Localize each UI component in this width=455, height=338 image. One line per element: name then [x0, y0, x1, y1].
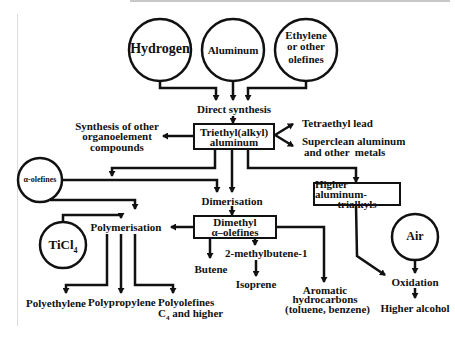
triethyl-line1: Triethyl(alkyl) [200, 127, 268, 137]
dimethyl-alpha-olefines-box: Dimethyl α–olefines [193, 215, 277, 239]
higher-line1: Higher aluminum- [315, 179, 399, 199]
polymerisation-label: Polymerisation [90, 222, 162, 233]
polyolefines-line2: C4 and higher [158, 308, 223, 324]
higher-line2: trialkyls [337, 199, 376, 209]
polyolefines-and-higher: and higher [169, 307, 223, 319]
ticl4-label: TiCl4 [43, 238, 83, 258]
polyolefines-c: C [158, 307, 166, 319]
aromatic-line3: (toluene, benzene) [285, 304, 365, 315]
alpha-olefines-label: α-olefines [19, 175, 61, 184]
synthesis-other-line3: compounds [72, 142, 162, 153]
higher-aluminum-trialkyls-box: Higher aluminum- trialkyls [313, 182, 401, 206]
direct-synthesis-label: Direct synthesis [196, 104, 272, 115]
dimerisation-label: Dimerisation [200, 196, 264, 207]
hydrogen-label: Hydrogen [129, 41, 191, 57]
triethyl-line2: aluminum [210, 137, 258, 147]
aluminum-label: Aluminum [203, 44, 263, 56]
higher-alcohol-label: Higher alcohol [376, 303, 454, 314]
butene-label: Butene [193, 264, 229, 275]
polyethylene-label: Polyethylene [24, 298, 88, 309]
superclean-line2: and other metals [304, 147, 385, 158]
triethyl-aluminum-box: Triethyl(alkyl) aluminum [193, 123, 275, 150]
polypropylene-label: Polypropylene [88, 297, 154, 308]
tetraethyl-lead-label: Tetraethyl lead [302, 118, 373, 129]
dimethyl-line2: α–olefines [211, 227, 258, 237]
oxidation-label: Oxidation [390, 277, 440, 288]
ticl4-text: TiCl [48, 237, 73, 252]
ethylene-label-line3: olefines [281, 54, 331, 65]
methylbutene-label: 2-methylbutene-1 [225, 248, 287, 259]
ethylene-label-line2: or other [281, 41, 331, 52]
isoprene-label: Isoprene [235, 279, 277, 290]
air-label: Air [400, 230, 430, 243]
ticl4-subscript: 4 [74, 246, 78, 255]
